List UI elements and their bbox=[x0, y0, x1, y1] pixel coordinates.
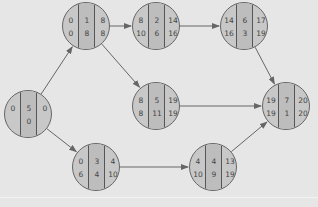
node-value-bottom-0: 16 bbox=[221, 29, 237, 38]
node-value-bottom-1: 6 bbox=[149, 29, 165, 38]
node-value-top-1: 1 bbox=[79, 16, 95, 25]
node-value-bottom-0: 19 bbox=[263, 109, 279, 118]
node-value-bottom-0: 0 bbox=[63, 29, 79, 38]
node-n5: 851981119 bbox=[132, 82, 180, 130]
node-value-bottom-1: 8 bbox=[79, 29, 95, 38]
node-value-top-1: 3 bbox=[89, 157, 105, 166]
node-value-top-1: 5 bbox=[149, 96, 165, 105]
node-value-top-0: 8 bbox=[133, 96, 149, 105]
node-value-bottom-0: 8 bbox=[133, 109, 149, 118]
node-middle-column bbox=[78, 3, 95, 49]
node-n4: 1461716319 bbox=[220, 2, 268, 50]
edge-n1-n7 bbox=[47, 129, 76, 152]
node-value-bottom-1: 3 bbox=[237, 29, 253, 38]
node-value-bottom-1: 4 bbox=[89, 170, 105, 179]
node-value-top-0: 19 bbox=[263, 96, 279, 105]
node-value-top-2: 19 bbox=[165, 96, 180, 105]
bottom-divider bbox=[0, 197, 318, 198]
node-value-top-0: 0 bbox=[73, 157, 89, 166]
node-value-top-0: 0 bbox=[63, 16, 79, 25]
node-value-bottom-2: 20 bbox=[295, 109, 310, 118]
node-middle-column bbox=[205, 144, 222, 190]
node-value-bottom-0: 10 bbox=[133, 29, 149, 38]
node-middle-column bbox=[88, 144, 105, 190]
node-value-bottom-2: 19 bbox=[165, 109, 180, 118]
node-value-top-1: 7 bbox=[279, 96, 295, 105]
node-value-bottom-2: 16 bbox=[165, 29, 180, 38]
node-n2: 018088 bbox=[62, 2, 110, 50]
node-value-top-0: 14 bbox=[221, 16, 237, 25]
node-value-top-0: 4 bbox=[190, 157, 206, 166]
node-value-top-1: 4 bbox=[206, 157, 222, 166]
edge-n1-n2 bbox=[41, 47, 72, 94]
node-n8: 441310919 bbox=[189, 143, 237, 191]
node-value-bottom-2: 19 bbox=[222, 170, 237, 179]
node-middle-column bbox=[278, 83, 295, 129]
node-value-bottom-1: 0 bbox=[21, 117, 37, 126]
node-value-bottom-2: 10 bbox=[105, 170, 120, 179]
node-value-top-2: 8 bbox=[95, 16, 110, 25]
node-n1: 0500 bbox=[4, 90, 52, 138]
edge-n2-n5 bbox=[102, 44, 140, 87]
node-middle-column bbox=[20, 91, 37, 137]
node-value-bottom-1: 11 bbox=[149, 109, 165, 118]
node-middle-column bbox=[148, 3, 165, 49]
node-n7: 0346410 bbox=[72, 143, 120, 191]
node-value-bottom-2: 19 bbox=[253, 29, 268, 38]
edge-n8-n6 bbox=[231, 122, 266, 152]
node-value-top-2: 17 bbox=[253, 16, 268, 25]
node-middle-column bbox=[236, 3, 253, 49]
node-value-top-1: 2 bbox=[149, 16, 165, 25]
node-value-bottom-1: 1 bbox=[279, 109, 295, 118]
node-value-top-2: 20 bbox=[295, 96, 310, 105]
node-n6: 1972019120 bbox=[262, 82, 310, 130]
node-value-top-2: 14 bbox=[165, 16, 180, 25]
node-value-top-2: 0 bbox=[37, 104, 52, 113]
node-n3: 821410616 bbox=[132, 2, 180, 50]
node-value-top-1: 5 bbox=[21, 104, 37, 113]
node-value-bottom-2: 8 bbox=[95, 29, 110, 38]
node-value-top-1: 6 bbox=[237, 16, 253, 25]
node-value-bottom-0: 6 bbox=[73, 170, 89, 179]
node-value-top-0: 8 bbox=[133, 16, 149, 25]
node-value-top-0: 0 bbox=[5, 104, 21, 113]
node-value-top-2: 4 bbox=[105, 157, 120, 166]
node-middle-column bbox=[148, 83, 165, 129]
node-value-bottom-1: 9 bbox=[206, 170, 222, 179]
edge-n4-n6 bbox=[255, 47, 274, 84]
node-value-bottom-0: 10 bbox=[190, 170, 206, 179]
node-value-top-2: 13 bbox=[222, 157, 237, 166]
